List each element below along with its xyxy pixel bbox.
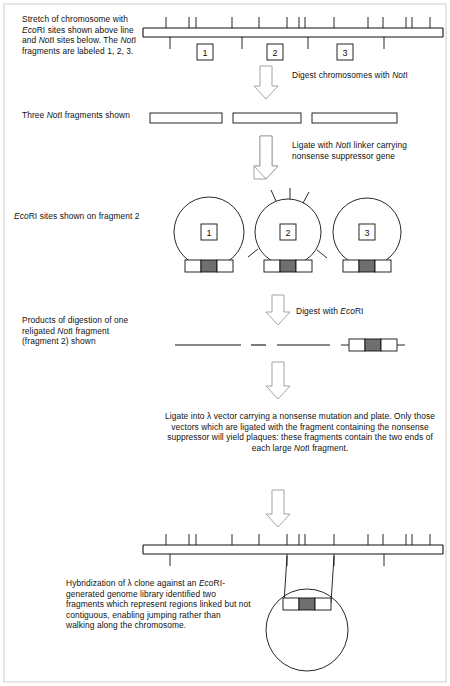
notI-sites-top	[170, 37, 384, 49]
caption-step-3: EcoRI sites shown on fragment 2	[14, 211, 144, 222]
ecoRI-sites-circle-2	[248, 188, 327, 258]
svg-text:2: 2	[272, 48, 277, 58]
notI-fragment-2	[233, 113, 301, 123]
arrow-label-ligate-lambda: Ligate into λ vector carrying a nonsense…	[160, 411, 440, 453]
caption-step-4: Products of digestion of one religated N…	[22, 315, 147, 347]
svg-text:3: 3	[342, 48, 347, 58]
notI-sites-bottom	[170, 554, 384, 566]
svg-text:2: 2	[285, 228, 290, 238]
notI-fragment-bars	[150, 113, 397, 123]
fragment-number-2: 2	[267, 44, 283, 60]
svg-text:3: 3	[364, 228, 369, 238]
notI-fragment-1	[150, 113, 222, 123]
religated-circle-2: 2	[248, 188, 327, 272]
svg-text:1: 1	[202, 48, 207, 58]
product-linker-fragment	[341, 339, 405, 351]
fragment-number-3: 3	[337, 44, 353, 60]
arrow-label-digest-notI: Digest chromosomes with NotI	[292, 70, 417, 81]
caption-step-2: Three NotI fragments shown	[22, 110, 147, 121]
notI-fragment-3	[312, 113, 397, 123]
arrow-ligate-lambda	[266, 362, 290, 399]
top-chromosome: 1 2 3	[143, 17, 443, 60]
arrow-ligate-linker	[254, 136, 278, 179]
bottom-jump-circle	[266, 589, 348, 671]
hybridization-link-lines	[284, 556, 334, 603]
digestion-products	[175, 339, 405, 351]
arrow-digest-notI	[254, 66, 278, 99]
caption-step-1: Stretch of chromosome with EcoRI sites s…	[22, 14, 142, 56]
arrow-digest-ecoRI	[266, 295, 290, 325]
arrow-to-hybridization	[266, 490, 290, 527]
svg-text:1: 1	[206, 228, 211, 238]
arrow-label-digest-ecoRI: Digest with EcoRI	[296, 306, 426, 317]
religated-circle-1: 1	[174, 197, 244, 272]
caption-step-5: Hybridization of λ clone against an EcoR…	[66, 578, 251, 631]
fragment-number-1: 1	[197, 44, 213, 60]
figure-canvas: 1 2 3	[0, 0, 450, 686]
arrow-label-ligate-linker: Ligate with NotI linker carrying nonsens…	[292, 140, 412, 161]
ecoRI-sites-top	[166, 17, 430, 28]
religated-circle-3: 3	[333, 198, 401, 272]
ecoRI-sites-bottom	[166, 534, 430, 545]
